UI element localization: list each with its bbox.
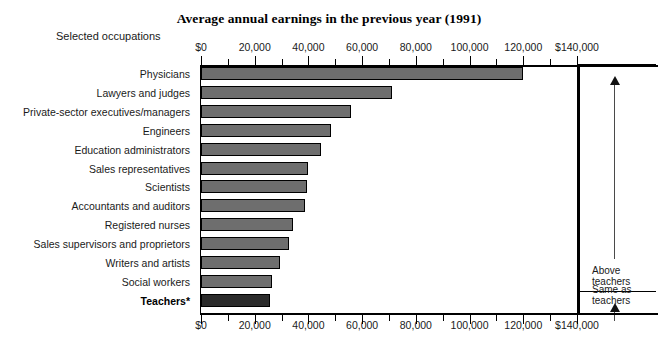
x-tick-mark (389, 315, 390, 321)
bar (201, 143, 321, 156)
bar (201, 275, 272, 288)
x-tick-mark (443, 315, 444, 321)
bar (201, 86, 392, 99)
bar-row (201, 67, 577, 86)
bracket-label: Same as teachers (592, 284, 631, 307)
bar-row (201, 275, 577, 294)
category-label: Writers and artists (106, 257, 190, 269)
category-label: Lawyers and judges (97, 87, 190, 99)
bracket-divider (578, 313, 656, 315)
bar-row (201, 199, 577, 218)
bar-row (201, 218, 577, 237)
x-tick-mark (282, 315, 283, 321)
category-label: Accountants and auditors (72, 200, 191, 212)
x-tick-mark (577, 315, 578, 324)
x-tick-mark (335, 59, 336, 65)
x-tick-mark (255, 56, 256, 65)
x-tick-label: $0 (195, 41, 207, 53)
x-tick-label: 60,000 (346, 41, 378, 53)
bar (201, 199, 305, 212)
x-tick-mark (496, 315, 497, 321)
bar-row (201, 86, 577, 105)
bar-row (201, 162, 577, 181)
x-tick-mark (550, 59, 551, 65)
bar-row (201, 143, 577, 162)
category-label: Private-sector executives/managers (23, 106, 190, 118)
x-axis-ticks-top: $020,00040,00060,00080,000100,000120,000… (0, 41, 658, 55)
bar-row (201, 180, 577, 199)
bar (201, 237, 289, 250)
x-tick-label: 80,000 (400, 41, 432, 53)
category-label: Sales supervisors and proprietors (34, 238, 190, 250)
bar-series (201, 67, 577, 313)
x-tick-label: 40,000 (292, 41, 324, 53)
x-tick-mark (362, 56, 363, 65)
bar-row (201, 237, 577, 256)
x-tick-mark (308, 315, 309, 324)
bracket-spine (578, 64, 580, 313)
chart-title: Average annual earnings in the previous … (0, 11, 658, 27)
bar (201, 294, 270, 307)
bar (201, 218, 293, 231)
x-tick-label: $140,000 (555, 41, 599, 53)
x-tick-label: 20,000 (239, 41, 271, 53)
bar (201, 67, 523, 80)
bracket-divider (578, 64, 656, 66)
x-tick-label: 100,000 (451, 41, 489, 53)
category-label: Social workers (122, 276, 190, 288)
x-tick-mark (228, 315, 229, 321)
bar (201, 124, 331, 137)
x-tick-mark (416, 315, 417, 324)
x-tick-mark (308, 56, 309, 65)
bar (201, 256, 280, 269)
bar-row (201, 105, 577, 124)
bar-row (201, 294, 577, 313)
x-axis-ticks-bottom: $020,00040,00060,00080,000100,000120,000… (0, 319, 658, 333)
x-tick-mark (550, 315, 551, 321)
x-tick-mark (255, 315, 256, 324)
category-label: Physicians (140, 68, 190, 80)
x-tick-mark (523, 315, 524, 324)
x-tick-mark (201, 315, 202, 324)
x-tick-mark (362, 315, 363, 324)
bar (201, 180, 307, 193)
x-tick-mark (470, 56, 471, 65)
bar-row (201, 256, 577, 275)
x-tick-mark (389, 59, 390, 65)
x-tick-mark (282, 59, 283, 65)
x-tick-mark (201, 56, 202, 65)
category-label: Engineers (143, 125, 190, 137)
bar (201, 105, 351, 118)
category-label: Education administrators (74, 144, 190, 156)
x-tick-mark (523, 56, 524, 65)
category-label: Registered nurses (105, 219, 190, 231)
x-tick-mark (228, 59, 229, 65)
x-tick-label: 120,000 (504, 41, 542, 53)
bar-row (201, 124, 577, 143)
bracket-arrow-icon (614, 84, 615, 259)
category-label: Teachers* (141, 295, 190, 307)
x-tick-mark (416, 56, 417, 65)
chart-container: Average annual earnings in the previous … (0, 0, 658, 350)
bar (201, 162, 308, 175)
x-tick-mark (496, 59, 497, 65)
x-tick-mark (470, 315, 471, 324)
category-label: Scientists (145, 181, 190, 193)
x-tick-mark (335, 315, 336, 321)
category-label: Sales representatives (89, 163, 190, 175)
x-tick-mark (443, 59, 444, 65)
